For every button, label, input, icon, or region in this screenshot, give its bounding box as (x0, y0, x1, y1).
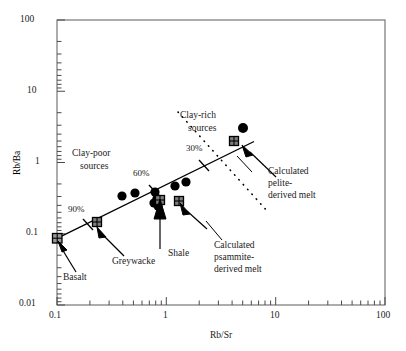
x-tick-label-0.1: 0.1 (49, 310, 61, 320)
psammite-melt-label-line2: psammite- (214, 252, 254, 264)
psammite-melt-label-line1: Calculated (214, 240, 255, 252)
marker-basalt (53, 234, 63, 244)
pelite-melt-label-line3: derived melt (268, 190, 316, 202)
clay-poor-sources-line1: Clay-poor (72, 148, 111, 160)
marker-pelite-melt (230, 137, 239, 146)
psammite-melt-label-line3: derived melt (214, 264, 262, 276)
x-axis-title: Rb/Sr (210, 330, 232, 340)
clay-poor-sources-line2: sources (80, 161, 109, 173)
chart-canvas (0, 0, 406, 351)
y-tick-label-1: 1 (35, 156, 40, 166)
mixing-percent-60: 60% (133, 168, 150, 178)
marker-greywacke (93, 218, 102, 227)
greywacke-label: Greywacke (112, 256, 155, 268)
y-axis-title: Rb/Ba (12, 151, 22, 175)
mixing-percent-90: 90% (68, 204, 85, 214)
pelite-melt-label-line1: Calculated (268, 166, 309, 178)
shale-label: Shale (168, 248, 189, 260)
y-tick-label-10: 10 (27, 85, 37, 95)
x-tick-label-10: 10 (270, 310, 280, 320)
marker-psammite-melt (175, 197, 184, 206)
clay-rich-sources-line2: sources (188, 123, 217, 135)
x-tick-label-1: 1 (163, 310, 168, 320)
y-tick-label-0.1: 0.1 (26, 227, 38, 237)
x-tick-label-100: 100 (376, 310, 390, 320)
mixing-percent-30: 30% (186, 143, 203, 153)
y-tick-label-0.01: 0.01 (19, 298, 36, 308)
clay-rich-sources-line1: Clay-rich (180, 110, 216, 122)
basalt-label: Basalt (63, 272, 87, 284)
figure-panel: 100 10 1 0.1 0.01 0.1 1 10 100 Rb/Ba Rb/… (0, 0, 406, 351)
pelite-melt-label-line2: pelite- (268, 178, 292, 190)
y-tick-label-100: 100 (20, 14, 34, 24)
